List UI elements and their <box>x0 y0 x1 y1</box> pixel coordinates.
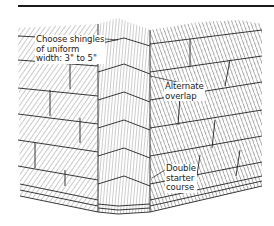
label-double-starter-course: Double starter course <box>165 164 197 193</box>
label-line: course <box>166 183 196 193</box>
label-line: width: 3" to 5" <box>36 54 104 64</box>
label-alternate-overlap: Alternate overlap <box>164 82 205 101</box>
label-choose-shingles: Choose shingles of uniform width: 3" to … <box>35 35 105 64</box>
roof-corner-illustration: Choose shingles of uniform width: 3" to … <box>0 0 274 226</box>
corner-column <box>98 18 150 214</box>
label-line: overlap <box>165 92 204 102</box>
